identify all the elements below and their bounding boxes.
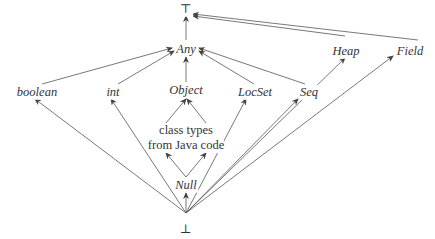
edge-bottom-locset <box>186 99 246 213</box>
node-class-types: class types from Java code <box>148 123 224 153</box>
class-types-line2: from Java code <box>148 138 224 153</box>
node-heap: Heap <box>331 44 360 59</box>
node-null: Null <box>174 178 198 193</box>
node-object: Object <box>168 83 203 98</box>
edge-null-class-left <box>166 153 186 177</box>
node-locset: LocSet <box>237 85 273 100</box>
edge-bottom-boolean <box>35 99 186 213</box>
edge-int-any <box>118 51 174 84</box>
node-int: int <box>105 85 120 100</box>
node-seq: Seq <box>299 85 319 100</box>
node-bottom: ⊥ <box>179 222 193 237</box>
node-field: Field <box>396 44 424 59</box>
node-boolean: boolean <box>16 85 58 100</box>
edge-class-object-left <box>166 99 186 123</box>
class-types-line1: class types <box>148 123 224 138</box>
edge-null-class-right <box>186 153 206 177</box>
edge-boolean-any <box>42 48 172 84</box>
edge-heap-top <box>193 16 345 36</box>
edge-class-object-right <box>187 99 206 123</box>
edges-layer <box>0 0 435 239</box>
node-top: ⊤ <box>179 2 193 17</box>
edge-locset-any <box>199 51 254 84</box>
edge-bottom-seq <box>186 99 298 213</box>
edge-seq-any <box>199 48 305 84</box>
edge-bottom-int <box>111 99 186 213</box>
edge-field-top <box>193 14 418 40</box>
node-any: Any <box>175 42 196 57</box>
